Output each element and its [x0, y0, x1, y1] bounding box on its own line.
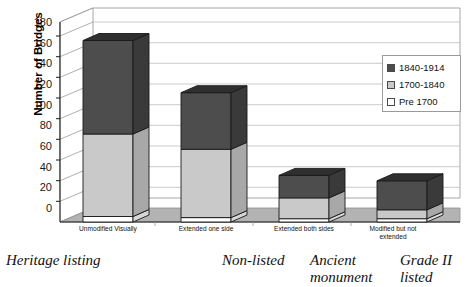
bar-segment-pre-1700	[181, 218, 231, 222]
bar-group-extended-one-side	[181, 86, 247, 222]
y-axis-title: Number of Bridges	[32, 4, 44, 124]
y-tick-0: 0	[46, 202, 52, 214]
caption-cell-non-listed: Non-listed	[222, 252, 322, 269]
bar-group-extended-both-sides	[279, 168, 345, 222]
legend-swatch-pre-1700	[387, 98, 395, 106]
bar-group-unmodified-visually	[83, 34, 149, 223]
legend-item-1700-1840[interactable]: 1700-1840	[387, 76, 460, 93]
caption-cell-ancient-monument: Ancient monument	[310, 252, 400, 286]
chart-legend[interactable]: 1840-1914 1700-1840 Pre 1700	[382, 55, 461, 112]
bar-group-modified-but-not-extended	[377, 174, 443, 222]
bar-segment-1840-1914	[279, 175, 329, 198]
bar-segment-1700-1840	[377, 210, 427, 219]
y-tick-20: 20	[40, 181, 52, 193]
y-tick-40: 40	[40, 161, 52, 173]
legend-label-1840-1914: 1840-1914	[399, 62, 444, 73]
bar-segment-1840-1914	[181, 93, 231, 150]
legend-label-pre-1700: Pre 1700	[399, 96, 438, 107]
caption-cell-heritage-listing: Heritage listing	[6, 252, 206, 269]
bar-segment-1840-1914-side	[133, 34, 149, 135]
bar-segment-1700-1840	[181, 149, 231, 217]
caption-row: Heritage listing Non-listed Ancient monu…	[0, 232, 467, 287]
caption-cell-grade-ii-listed: Grade II listed	[400, 252, 467, 286]
bar-segment-pre-1700	[279, 219, 329, 222]
bar-segment-1700-1840	[83, 134, 133, 217]
legend-item-1840-1914[interactable]: 1840-1914	[387, 59, 460, 76]
bar-segment-1840-1914	[377, 181, 427, 210]
bar-segment-1700-1840-side	[231, 142, 247, 217]
legend-swatch-1700-1840	[387, 81, 395, 89]
chart-page: 180 160 140 120 100 80 60 40 20 0	[0, 0, 467, 287]
bar-segment-1840-1914	[83, 41, 133, 135]
bar-segment-pre-1700	[83, 217, 133, 223]
bridges-stacked-bar-chart: 180 160 140 120 100 80 60 40 20 0	[0, 0, 467, 232]
bar-segment-1700-1840	[279, 198, 329, 219]
legend-label-1700-1840: 1700-1840	[399, 79, 444, 90]
chart-canvas: 180 160 140 120 100 80 60 40 20 0	[0, 0, 467, 232]
legend-swatch-1840-1914	[387, 64, 395, 72]
legend-item-pre-1700[interactable]: Pre 1700	[387, 93, 460, 110]
bar-segment-1840-1914-side	[231, 86, 247, 150]
y-tick-60: 60	[40, 140, 52, 152]
y-axis-ticks	[56, 36, 60, 201]
bar-segment-1700-1840-side	[133, 127, 149, 217]
bar-segment-pre-1700	[377, 219, 427, 222]
